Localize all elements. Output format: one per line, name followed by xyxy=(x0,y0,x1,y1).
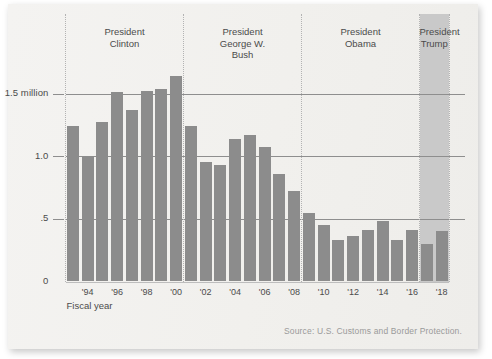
term-divider-3 xyxy=(419,14,421,282)
bar-15[interactable] xyxy=(391,240,403,281)
bar-08[interactable] xyxy=(288,191,300,281)
bar-98[interactable] xyxy=(141,91,153,281)
bar-17[interactable] xyxy=(421,244,433,282)
y-axis-label-1: 1.0 xyxy=(0,150,49,161)
screenshot-root: 0.51.01.5 million'94'96'98'00'02'04'06'0… xyxy=(0,0,492,359)
bar-14[interactable] xyxy=(377,221,389,281)
y-tick-mark-1p5 xyxy=(53,94,64,95)
x-axis-title: Fiscal year xyxy=(67,300,113,311)
bar-05[interactable] xyxy=(244,135,256,282)
x-axis-tick-96: '96 xyxy=(102,287,132,297)
annotation-president-george-w-bush: President George W. Bush xyxy=(184,26,302,61)
bar-94[interactable] xyxy=(82,156,94,281)
term-divider-4 xyxy=(449,14,451,282)
x-axis-tick-18: '18 xyxy=(427,287,457,297)
bar-06[interactable] xyxy=(259,147,271,281)
bar-02[interactable] xyxy=(200,162,212,281)
bar-10[interactable] xyxy=(318,225,330,281)
bar-97[interactable] xyxy=(126,110,138,282)
y-axis-label-0p5: .5 xyxy=(0,212,49,223)
y-tick-mark-0p5 xyxy=(53,219,64,220)
gridline-1p5 xyxy=(66,94,466,95)
x-axis-tick-98: '98 xyxy=(132,287,162,297)
bar-99[interactable] xyxy=(155,89,167,282)
bar-09[interactable] xyxy=(303,213,315,282)
bar-07[interactable] xyxy=(273,174,285,282)
x-axis-tick-06: '06 xyxy=(250,287,280,297)
annotation-president-trump: President Trump xyxy=(420,26,450,49)
x-axis-tick-94: '94 xyxy=(73,287,103,297)
bar-13[interactable] xyxy=(362,230,374,281)
x-axis-tick-02: '02 xyxy=(191,287,221,297)
x-axis-tick-04: '04 xyxy=(220,287,250,297)
bar-95[interactable] xyxy=(96,122,108,281)
bar-18[interactable] xyxy=(436,231,448,281)
annotation-president-clinton: President Clinton xyxy=(66,26,184,49)
bar-16[interactable] xyxy=(406,230,418,281)
bar-96[interactable] xyxy=(111,92,123,281)
x-axis-baseline xyxy=(66,282,450,283)
x-axis-tick-16: '16 xyxy=(397,287,427,297)
x-axis-tick-14: '14 xyxy=(368,287,398,297)
y-axis-label-0: 0 xyxy=(0,275,49,286)
y-axis-label-1p5: 1.5 million xyxy=(0,87,49,98)
bar-11[interactable] xyxy=(332,240,344,281)
bar-00[interactable] xyxy=(170,76,182,281)
bar-12[interactable] xyxy=(347,236,359,281)
bar-93[interactable] xyxy=(67,126,79,281)
annotation-president-obama: President Obama xyxy=(302,26,420,49)
x-axis-tick-10: '10 xyxy=(309,287,339,297)
bar-04[interactable] xyxy=(229,139,241,282)
x-axis-tick-12: '12 xyxy=(338,287,368,297)
x-axis-tick-00: '00 xyxy=(161,287,191,297)
bar-chart: 0.51.01.5 million'94'96'98'00'02'04'06'0… xyxy=(0,0,492,359)
x-axis-tick-08: '08 xyxy=(279,287,309,297)
source-note: Source: U.S. Customs and Border Protecti… xyxy=(284,326,462,336)
y-tick-mark-1 xyxy=(53,156,64,157)
bar-03[interactable] xyxy=(214,165,226,282)
y-tick-mark-0 xyxy=(53,282,64,283)
bar-01[interactable] xyxy=(185,126,197,281)
